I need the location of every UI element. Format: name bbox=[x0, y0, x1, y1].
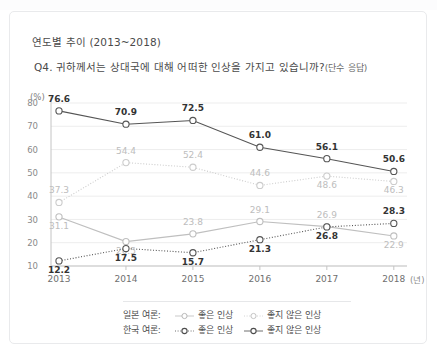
legend-label-korea-good: 좋은 인상 bbox=[198, 323, 233, 338]
card-title: 연도별 추이 (2013~2018) bbox=[32, 34, 161, 49]
survey-question: Q4. 귀하께서는 상대국에 대해 어떠한 인상을 가지고 있습니까?(단수 응… bbox=[34, 59, 367, 74]
legend-item-korea-good[interactable]: 좋은 인상 bbox=[175, 323, 233, 338]
legend-row-japan: 일본 여론: 좋은 인상 좋지 않은 인상 bbox=[123, 308, 332, 323]
page-top-artifact bbox=[0, 0, 437, 10]
legend-item-japan-bad[interactable]: 좋지 않은 인상 bbox=[244, 308, 321, 323]
legend-marker-dotted-light-icon bbox=[244, 311, 263, 321]
chart-card: 연도별 추이 (2013~2018) Q4. 귀하께서는 상대국에 대해 어떠한… bbox=[9, 11, 427, 344]
legend-group-japan: 일본 여론: bbox=[123, 308, 175, 323]
legend-marker-solid-light-icon bbox=[175, 311, 194, 321]
question-sub-text: (단수 응답) bbox=[325, 63, 368, 73]
legend-row-korea: 한국 여론: 좋은 인상 좋지 않은 인상 bbox=[123, 323, 332, 338]
legend-item-korea-bad[interactable]: 좋지 않은 인상 bbox=[244, 323, 321, 338]
legend-label-japan-bad: 좋지 않은 인상 bbox=[267, 308, 321, 323]
y-axis-unit-label: (%) bbox=[30, 92, 45, 102]
legend-marker-dotted-dark-icon bbox=[175, 326, 194, 336]
legend-item-japan-good[interactable]: 좋은 인상 bbox=[175, 308, 233, 323]
question-main-text: Q4. 귀하께서는 상대국에 대해 어떠한 인상을 가지고 있습니까? bbox=[34, 61, 325, 73]
legend-group-korea: 한국 여론: bbox=[123, 323, 175, 338]
legend-marker-solid-dark-icon bbox=[244, 326, 263, 336]
chart-legend: 일본 여론: 좋은 인상 좋지 않은 인상 한국 여론: 좋은 인상 bbox=[123, 308, 332, 338]
legend-divider bbox=[123, 301, 351, 302]
legend-label-japan-good: 좋은 인상 bbox=[198, 308, 233, 323]
legend-label-korea-bad: 좋지 않은 인상 bbox=[267, 323, 321, 338]
